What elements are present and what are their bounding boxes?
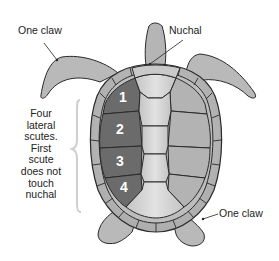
bracket [72, 100, 81, 212]
scute-number-2: 2 [116, 121, 124, 137]
pointer-line-left-claw [44, 43, 57, 60]
scute-number-3: 3 [116, 153, 124, 169]
pointer-line-right-claw [203, 214, 218, 219]
label-nuchal: Nuchal [169, 24, 202, 36]
label-rear-flipper-claw: One claw [219, 207, 263, 219]
turtle-head [145, 23, 166, 65]
scute-number-1: 1 [119, 89, 127, 105]
scute-number-4: 4 [120, 179, 128, 195]
label-lateral-scutes-note: Four lateral scutes. First scute does no… [18, 108, 64, 201]
turtle-diagram: 1 2 3 4 One claw Nuchal One claw Four la… [0, 0, 279, 261]
label-front-flipper-claw: One claw [18, 24, 62, 36]
